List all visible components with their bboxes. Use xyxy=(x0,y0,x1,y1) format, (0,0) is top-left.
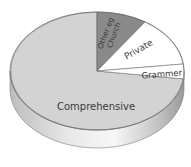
pie-chart: Comprehensive Private Grammer Other eg C… xyxy=(0,0,191,167)
label-comprehensive: Comprehensive xyxy=(57,101,135,112)
